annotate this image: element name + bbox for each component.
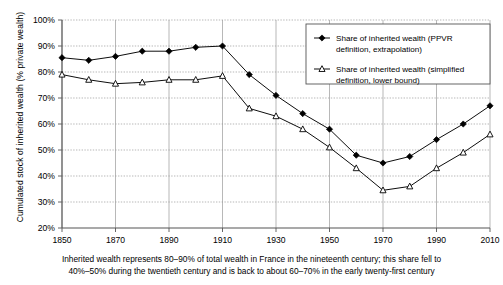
legend-label-line2-0: definition, extrapolation) [336,45,422,54]
data-point-marker [112,53,118,59]
caption-line-1: Inherited wealth represents 80–90% of to… [0,254,503,266]
caption-line-2: 40%–50% during the twentieth century and… [0,266,503,278]
y-axis-tick-label: 50% [38,145,56,155]
data-point-marker [139,48,145,54]
y-axis-tick-label: 40% [38,171,56,181]
x-axis-tick-label: 1850 [52,235,71,245]
data-point-marker [86,57,92,63]
x-axis-tick-label: 1890 [159,235,178,245]
legend-label-line2-1: definition, lower bound) [336,76,420,85]
data-point-marker [353,165,359,171]
y-axis-tick-label: 100% [33,15,55,25]
legend-label-line1-0: Share of inherited wealth (PPVR [336,34,453,43]
legend-box [306,24,490,84]
x-axis-tick-label: 1910 [213,235,232,245]
data-point-marker [380,160,386,166]
x-axis-tick-label: 1930 [266,235,285,245]
y-axis-tick-label: 80% [38,67,56,77]
data-point-marker [433,137,439,143]
data-point-marker [407,183,413,189]
y-axis-tick-label: 20% [38,223,56,233]
data-point-marker [166,48,172,54]
data-point-marker [300,126,306,132]
data-point-marker [219,73,225,79]
y-axis-tick-label: 70% [38,93,56,103]
x-axis-tick-label: 1990 [427,235,446,245]
x-axis-tick-label: 1870 [106,235,125,245]
data-point-marker [193,44,199,50]
data-point-marker [433,165,439,171]
data-point-marker [487,103,493,109]
data-point-marker [59,55,65,61]
data-point-marker [407,153,413,159]
data-point-marker [460,121,466,127]
data-point-marker [326,144,332,150]
chart-figure: Cumulated stock of inherited wealth (% p… [0,0,503,285]
x-axis-tick-label: 1970 [373,235,392,245]
data-point-marker [300,111,306,117]
data-point-marker [487,131,493,137]
line-chart-plot: 20%30%40%50%60%70%80%90%100%185018701890… [0,0,503,285]
x-axis-tick-label: 1950 [320,235,339,245]
legend-label-line1-1: Share of inherited wealth (simplified [336,65,464,74]
y-axis-tick-label: 60% [38,119,56,129]
y-axis-tick-label: 30% [38,197,56,207]
figure-caption: Inherited wealth represents 80–90% of to… [0,254,503,277]
x-axis-tick-label: 2010 [480,235,499,245]
y-axis-tick-label: 90% [38,41,56,51]
